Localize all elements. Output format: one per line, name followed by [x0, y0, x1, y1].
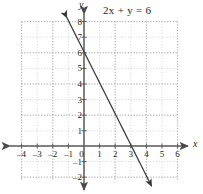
x-tick-label: 6	[173, 149, 183, 159]
y-tick-label: –2	[70, 172, 82, 182]
y-tick-label: 3	[72, 95, 82, 105]
y-tick-label: 4	[72, 79, 82, 89]
graph-figure: 2x + y = 6 y x –4 –3 –2 –1 0 1 2 3 4 5 6…	[0, 0, 203, 194]
equation-label: 2x + y = 6	[103, 4, 151, 16]
coordinate-plane	[0, 0, 203, 194]
y-tick-label: 7	[72, 32, 82, 42]
x-tick-label: 4	[141, 149, 151, 159]
y-tick-label: 2	[72, 110, 82, 120]
x-tick-label: –4	[16, 149, 28, 159]
y-tick-label: 5	[72, 63, 82, 73]
y-tick-label: 8	[72, 17, 82, 27]
x-tick-label: –2	[47, 149, 59, 159]
x-axis-label: x	[193, 138, 197, 149]
x-tick-label: 5	[157, 149, 167, 159]
x-tick-label: 2	[110, 149, 120, 159]
x-axis	[10, 144, 188, 149]
y-axis-label: y	[79, 0, 83, 10]
x-tick-label: 1	[95, 149, 105, 159]
x-tick-label: –3	[31, 149, 43, 159]
y-tick-label: –1	[70, 157, 82, 167]
y-tick-label: 6	[72, 48, 82, 58]
y-tick-label: 1	[72, 126, 82, 136]
y-axis	[82, 14, 87, 190]
x-tick-label: 3	[126, 149, 136, 159]
equation-text: 2x + y = 6	[103, 4, 151, 16]
